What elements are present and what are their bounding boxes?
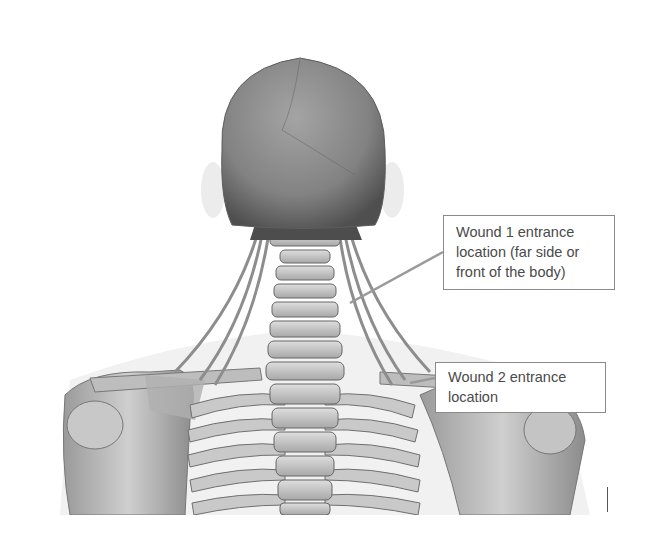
callout-wound-1-line-3: front of the body) xyxy=(456,262,606,282)
anatomy-illustration: Wound 1 entrance location (far side or f… xyxy=(0,0,651,534)
callout-wound-2: Wound 2 entrance location xyxy=(435,362,606,413)
callout-wound-2-line-1: Wound 2 entrance xyxy=(448,367,597,387)
spine xyxy=(266,232,344,515)
callout-wound-1-line-1: Wound 1 entrance xyxy=(456,222,606,242)
skull xyxy=(222,58,386,229)
edge-mark xyxy=(607,487,608,512)
leader-line-wound-1 xyxy=(350,252,443,303)
callout-wound-1: Wound 1 entrance location (far side or f… xyxy=(443,215,615,290)
callout-wound-1-line-2: location (far side or xyxy=(456,242,606,262)
callout-wound-2-line-2: location xyxy=(448,387,597,407)
